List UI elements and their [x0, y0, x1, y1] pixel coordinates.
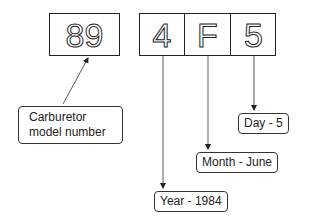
model-number-box: 89 — [49, 13, 120, 56]
month-label: Month - June — [196, 152, 278, 173]
month-code-cell: F — [185, 14, 230, 55]
day-label-text: Day - 5 — [244, 116, 283, 131]
year-label: Year - 1984 — [154, 191, 228, 212]
day-code: 5 — [244, 18, 263, 52]
month-code: F — [197, 18, 218, 52]
date-code-box: 4 F 5 — [139, 13, 276, 56]
year-code-cell: 4 — [140, 14, 184, 55]
model-arrow — [63, 58, 88, 104]
model-number-label: Carburetor model number — [18, 106, 123, 144]
day-label: Day - 5 — [238, 113, 289, 134]
model-label-line2: model number — [29, 125, 106, 140]
day-code-cell: 5 — [231, 14, 276, 55]
model-label-line1: Carburetor — [29, 110, 86, 125]
model-number-value: 89 — [66, 18, 104, 52]
year-label-text: Year - 1984 — [160, 194, 222, 209]
month-label-text: Month - June — [202, 155, 272, 170]
year-code: 4 — [153, 18, 172, 52]
